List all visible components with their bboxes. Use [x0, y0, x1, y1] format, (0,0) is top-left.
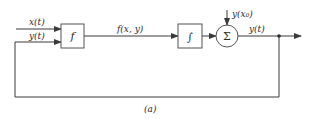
integrator-block: ∫	[178, 24, 202, 48]
input-y-label: y(t)	[28, 31, 45, 41]
figure-caption: (a)	[144, 104, 157, 114]
block-diagram: x(t) y(t) f f(x, y) ∫ Σ y(x₀) y(t)	[0, 0, 313, 119]
sigma-icon: Σ	[223, 30, 231, 43]
summer-block: Σ	[216, 25, 238, 47]
function-block: f	[61, 24, 84, 48]
output-label: y(t)	[248, 24, 265, 34]
initial-condition-label: y(x₀)	[231, 9, 253, 19]
feedback-loop	[15, 36, 279, 97]
input-x-label: x(t)	[29, 17, 45, 27]
integral-icon: ∫	[187, 31, 193, 44]
f-output-label: f(x, y)	[116, 24, 144, 34]
